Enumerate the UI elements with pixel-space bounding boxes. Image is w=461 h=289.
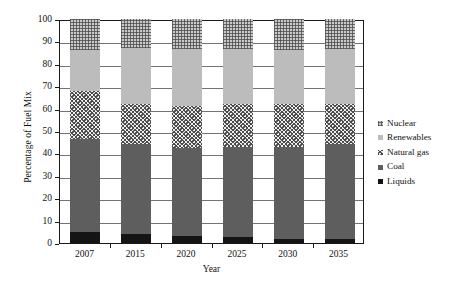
legend-label: Renewables bbox=[387, 133, 431, 142]
legend-item-renewables: Renewables bbox=[378, 131, 458, 146]
bar-segment-liquids bbox=[325, 239, 355, 243]
bar-2015 bbox=[121, 19, 151, 243]
y-axis-tick-label: 80 bbox=[12, 60, 52, 70]
bar-segment-liquids bbox=[121, 234, 151, 243]
bar-segment-nuclear bbox=[172, 19, 202, 49]
y-gridline bbox=[60, 88, 363, 89]
y-axis-tick-label: 90 bbox=[12, 37, 52, 47]
y-axis-tick-mark bbox=[55, 65, 59, 66]
bar-segment-renewables bbox=[325, 49, 355, 104]
x-axis-tick-mark bbox=[110, 244, 111, 248]
y-axis-tick-mark bbox=[55, 154, 59, 155]
legend-swatch-icon bbox=[378, 179, 383, 184]
x-axis-tick-mark bbox=[313, 244, 314, 248]
bar-segment-renewables bbox=[274, 50, 304, 104]
bar-segment-natural-gas bbox=[325, 104, 355, 144]
legend-label: Natural gas bbox=[387, 148, 429, 157]
bar-segment-nuclear bbox=[325, 19, 355, 49]
legend-item-nuclear: Nuclear bbox=[378, 116, 458, 131]
y-axis-tick-mark bbox=[55, 199, 59, 200]
x-axis-tick-mark bbox=[262, 244, 263, 248]
bar-segment-coal bbox=[325, 144, 355, 238]
bar-segment-liquids bbox=[70, 232, 100, 243]
bar-segment-liquids bbox=[223, 237, 253, 243]
legend-swatch-icon bbox=[378, 165, 383, 170]
y-axis-tick-mark bbox=[55, 20, 59, 21]
plot-area bbox=[59, 20, 364, 244]
bar-segment-coal bbox=[274, 147, 304, 239]
bar-segment-renewables bbox=[70, 50, 100, 90]
bar-segment-natural-gas bbox=[274, 104, 304, 147]
legend-label: Coal bbox=[387, 162, 404, 171]
bar-segment-coal bbox=[223, 147, 253, 238]
y-gridline bbox=[60, 43, 363, 44]
y-axis-tick-label: 70 bbox=[12, 82, 52, 92]
bar-segment-nuclear bbox=[70, 19, 100, 50]
legend-label: Nuclear bbox=[387, 119, 416, 128]
bar-2030 bbox=[274, 19, 304, 243]
y-axis-tick-mark bbox=[55, 42, 59, 43]
y-axis-tick-mark bbox=[55, 244, 59, 245]
bar-segment-coal bbox=[121, 144, 151, 234]
y-axis-tick-label: 20 bbox=[12, 194, 52, 204]
y-axis-tick-label: 40 bbox=[12, 149, 52, 159]
x-axis-title: Year bbox=[59, 264, 364, 274]
y-gridline bbox=[60, 155, 363, 156]
bar-segment-nuclear bbox=[274, 19, 304, 50]
bar-segment-renewables bbox=[121, 48, 151, 104]
y-axis-tick-mark bbox=[55, 110, 59, 111]
y-gridline bbox=[60, 133, 363, 134]
y-axis-tick-label: 100 bbox=[12, 15, 52, 25]
y-axis-tick-label: 10 bbox=[12, 217, 52, 227]
bar-segment-natural-gas bbox=[121, 104, 151, 144]
bar-2020 bbox=[172, 19, 202, 243]
y-gridline bbox=[60, 66, 363, 67]
y-gridline bbox=[60, 111, 363, 112]
legend-swatch-icon bbox=[378, 121, 383, 126]
legend-swatch-icon bbox=[378, 150, 383, 155]
y-axis-tick-mark bbox=[55, 132, 59, 133]
y-axis-tick-mark bbox=[55, 177, 59, 178]
legend-item-liquids: Liquids bbox=[378, 174, 458, 189]
bar-segment-natural-gas bbox=[70, 91, 100, 139]
y-gridline bbox=[60, 223, 363, 224]
stacked-bar-chart-figure: Percentage of Fuel Mix 01020304050607080… bbox=[0, 0, 461, 289]
y-gridline bbox=[60, 200, 363, 201]
y-axis-tick-mark bbox=[55, 87, 59, 88]
bar-segment-renewables bbox=[223, 49, 253, 104]
legend-item-natural-gas: Natural gas bbox=[378, 145, 458, 160]
bar-segment-nuclear bbox=[223, 19, 253, 49]
bar-2007 bbox=[70, 19, 100, 243]
y-gridline bbox=[60, 178, 363, 179]
bar-segment-nuclear bbox=[121, 19, 151, 48]
x-axis-tick-mark bbox=[161, 244, 162, 248]
y-axis-tick-label: 50 bbox=[12, 127, 52, 137]
bar-segment-coal bbox=[70, 139, 100, 232]
chart-legend: NuclearRenewablesNatural gasCoalLiquids bbox=[378, 116, 458, 189]
x-axis-tick-label: 2035 bbox=[309, 249, 369, 259]
y-axis-tick-label: 0 bbox=[12, 239, 52, 249]
x-axis-tick-mark bbox=[212, 244, 213, 248]
y-axis-tick-label: 30 bbox=[12, 172, 52, 182]
legend-label: Liquids bbox=[387, 177, 415, 186]
legend-swatch-icon bbox=[378, 135, 383, 140]
bar-segment-natural-gas bbox=[172, 106, 202, 147]
bar-segment-renewables bbox=[172, 49, 202, 106]
bar-segment-liquids bbox=[274, 239, 304, 243]
legend-item-coal: Coal bbox=[378, 160, 458, 175]
y-axis-tick-mark bbox=[55, 222, 59, 223]
bar-2025 bbox=[223, 19, 253, 243]
bar-2035 bbox=[325, 19, 355, 243]
bar-segment-liquids bbox=[172, 236, 202, 243]
bar-segment-coal bbox=[172, 148, 202, 236]
y-axis-tick-label: 60 bbox=[12, 105, 52, 115]
bar-segment-natural-gas bbox=[223, 104, 253, 147]
